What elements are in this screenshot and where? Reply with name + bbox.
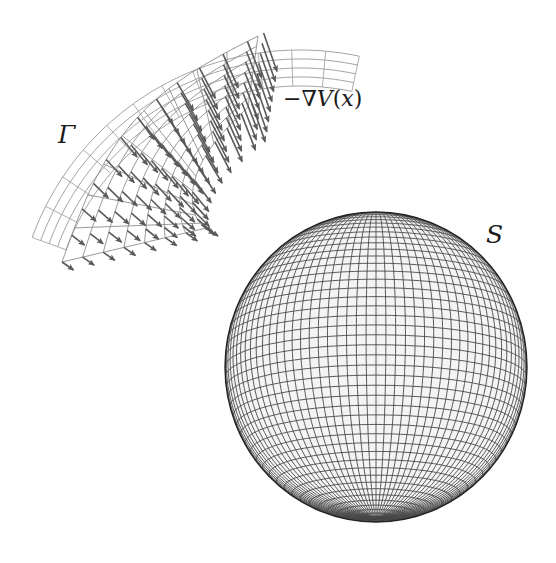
sphere-s — [225, 212, 527, 522]
sphere-shading — [225, 212, 527, 522]
gradient-function: V — [317, 86, 333, 111]
gradient-open-paren: ( — [333, 86, 342, 111]
patch-rim-mesh — [32, 50, 359, 250]
label-gamma: Γ — [58, 122, 75, 147]
patch-grid-mesh — [62, 36, 258, 262]
gradient-close-paren: ) — [354, 86, 363, 111]
gradient-variable: x — [341, 86, 353, 111]
diagram-canvas — [0, 0, 556, 563]
label-sphere-s: S — [486, 222, 503, 247]
gradient-prefix: −∇ — [283, 86, 317, 111]
label-negative-gradient: −∇V(x) — [283, 88, 362, 110]
